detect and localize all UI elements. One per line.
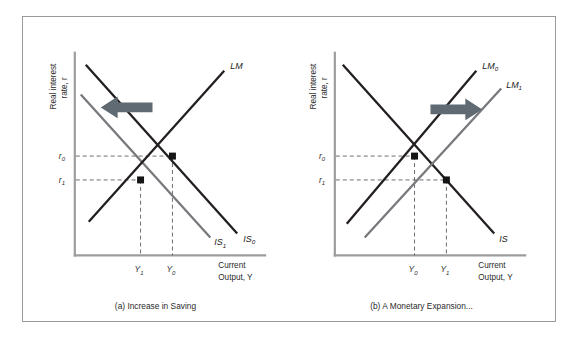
x-axis-title-line1-b: Current bbox=[478, 261, 506, 270]
y-axis-title-a: Real interest rate, r bbox=[49, 63, 69, 109]
figure-frame: Real interest rate, r bbox=[22, 16, 556, 322]
x-tick-label-y1-b: Y1 bbox=[440, 264, 449, 275]
curve-lm0-b bbox=[347, 71, 477, 224]
chart-panel-b: Real interest rate, r r0 bbox=[289, 17, 555, 321]
x-axis-title-line2-b: Output, Y bbox=[478, 273, 513, 282]
caption-panel-b: (b) A Monetary Expansion... bbox=[370, 301, 473, 311]
curve-is1-a bbox=[81, 94, 211, 237]
curve-label-is1-a: IS1 bbox=[214, 238, 226, 249]
curve-label-lm0-b: LM0 bbox=[482, 61, 498, 72]
x-tick-label-y0-b: Y0 bbox=[409, 264, 419, 275]
curve-label-is-b: IS bbox=[499, 234, 507, 244]
caption-panel-a: (a) Increase in Saving bbox=[115, 301, 197, 311]
y-tick-label-r1-a: r1 bbox=[59, 175, 65, 186]
curve-is-b bbox=[343, 65, 494, 234]
x-axis-title-line1-a: Current bbox=[218, 261, 246, 270]
curve-is0-a bbox=[86, 65, 237, 234]
curve-label-lm1-b: LM1 bbox=[506, 80, 522, 91]
y-axis-title-line2-a: rate, r bbox=[60, 77, 69, 99]
y-axis-title-b: Real interest rate, r bbox=[309, 63, 329, 109]
panel-monetary-expansion: Real interest rate, r r0 bbox=[289, 17, 555, 321]
equilibrium-point-e1-b bbox=[443, 176, 450, 183]
chart-panel-a: Real interest rate, r bbox=[23, 17, 289, 321]
x-tick-label-y0-a: Y0 bbox=[166, 264, 176, 275]
curve-label-lm-a: LM bbox=[230, 61, 243, 71]
y-axis-title-line1-a: Real interest bbox=[49, 63, 58, 109]
equilibrium-point-e1-a bbox=[137, 176, 144, 183]
panel-increase-in-saving: Real interest rate, r bbox=[23, 17, 289, 321]
equilibrium-point-e0-b bbox=[411, 153, 418, 160]
curve-label-is0-a: IS0 bbox=[243, 234, 255, 245]
y-tick-label-r0-b: r0 bbox=[319, 151, 326, 162]
curve-lm-a bbox=[89, 71, 224, 222]
shift-arrow-left-a bbox=[101, 96, 153, 118]
x-tick-label-y1-a: Y1 bbox=[135, 264, 144, 275]
y-tick-label-r0-a: r0 bbox=[59, 151, 66, 162]
x-axis-title-line2-a: Output, Y bbox=[218, 273, 253, 282]
y-tick-label-r1-b: r1 bbox=[319, 175, 325, 186]
equilibrium-point-e0-a bbox=[169, 153, 176, 160]
y-axis-title-line2-b: rate, r bbox=[320, 77, 329, 99]
y-axis-title-line1-b: Real interest bbox=[309, 63, 318, 109]
